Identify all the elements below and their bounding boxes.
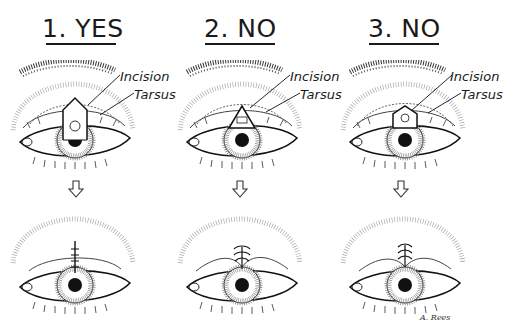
column-1-tarsus-leader (100, 93, 134, 115)
column-3-title-underline (369, 43, 439, 45)
preop-eyes-row (0, 60, 517, 175)
column-1-title: 1. YES (42, 14, 124, 43)
artist-signature: A. Rees (420, 313, 450, 322)
column-1-preop-eye (13, 60, 133, 169)
column-1-postop-eye (13, 215, 133, 314)
down-arrow-icon (232, 180, 248, 198)
column-1-incision-leader (88, 75, 120, 105)
column-1-title-underline (46, 43, 116, 45)
column-2-title: 2. NO (204, 14, 277, 43)
column-3-incision-leader (412, 75, 452, 110)
column-2-preop-eye (180, 60, 300, 169)
down-arrow-icon (393, 180, 409, 198)
column-3-title: 3. NO (368, 14, 441, 43)
column-3-tarsus-leader (428, 93, 461, 113)
column-2-title-underline (205, 43, 275, 45)
column-3-preop-eye (343, 60, 463, 169)
column-2-postop-eye (180, 215, 300, 314)
column-2-incision-leader (250, 75, 290, 108)
down-arrow-icon (68, 180, 84, 198)
column-3-postop-eye (343, 215, 463, 314)
